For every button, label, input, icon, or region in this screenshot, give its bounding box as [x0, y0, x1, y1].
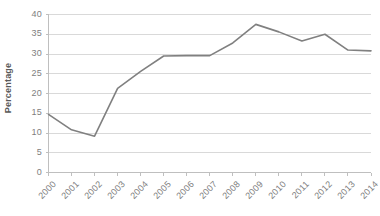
axis-ticks: [46, 15, 372, 176]
y-tick-label: 20: [20, 88, 42, 98]
y-tick-label: 30: [20, 48, 42, 58]
y-tick-label: 15: [20, 107, 42, 117]
y-tick-label: 10: [20, 127, 42, 137]
y-tick-label: 0: [20, 167, 42, 177]
data-series: [49, 24, 372, 136]
y-tick-label: 5: [20, 147, 42, 157]
y-tick-label: 35: [20, 28, 42, 38]
line-chart: Percentage 0510152025303540 200020012002…: [0, 0, 380, 216]
y-tick-label: 40: [20, 9, 42, 19]
y-tick-label: 25: [20, 68, 42, 78]
series-line: [49, 24, 372, 136]
